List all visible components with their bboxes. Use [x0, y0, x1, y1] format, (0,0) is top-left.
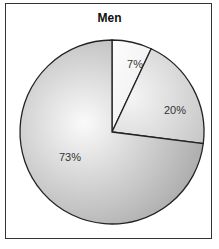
slice-label-73: 73% — [59, 151, 81, 163]
slice-label-7: 7% — [127, 58, 143, 70]
slice-label-20: 20% — [164, 104, 186, 116]
pie-chart: 7% 20% 73% — [0, 0, 219, 249]
